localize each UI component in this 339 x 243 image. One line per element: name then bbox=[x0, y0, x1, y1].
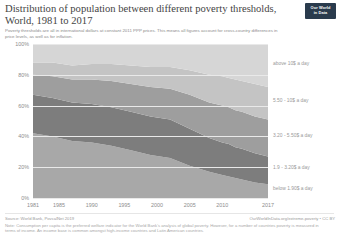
y-axis-tick: 60% bbox=[18, 103, 29, 109]
stacked-area-plot bbox=[33, 44, 268, 198]
y-axis-tick: 40% bbox=[18, 133, 29, 139]
x-axis-tick: 1995 bbox=[118, 202, 130, 208]
gridline bbox=[33, 198, 268, 199]
source-text: Source: World Bank, PovcalNet 2019 bbox=[5, 216, 74, 221]
x-axis-tick: 1981 bbox=[27, 202, 39, 208]
y-axis-tick: 20% bbox=[18, 164, 29, 170]
page-title: Distribution of population between diffe… bbox=[5, 3, 290, 26]
gridline bbox=[33, 136, 268, 137]
license-text[interactable]: OurWorldInData.org/extreme-poverty • CC … bbox=[250, 216, 335, 221]
owid-logo[interactable]: Our World in Data bbox=[305, 3, 336, 19]
x-axis-tick: 2017 bbox=[262, 202, 274, 208]
area-chart-svg bbox=[33, 44, 268, 198]
series-label-0: below 1.90$ a day bbox=[273, 186, 335, 192]
footnote-text: Note: Consumption per capita is the pref… bbox=[5, 223, 325, 233]
series-label-2: 3.20 - 5.50$ a day bbox=[273, 133, 335, 139]
x-axis-tick: 2000 bbox=[151, 202, 163, 208]
x-axis-tick: 1990 bbox=[86, 202, 98, 208]
x-axis-tick: 2010 bbox=[216, 202, 228, 208]
logo-line-2: in Data bbox=[314, 11, 328, 16]
gridline bbox=[33, 106, 268, 107]
x-axis-tick: 1985 bbox=[53, 202, 65, 208]
chart-subtitle: Poverty thresholds are all in internatio… bbox=[5, 28, 285, 39]
series-label-4: above 10$ a day bbox=[273, 61, 335, 67]
y-axis-tick: 80% bbox=[18, 72, 29, 78]
series-label-1: 1.9 - 3.20$ a day bbox=[273, 165, 335, 171]
y-axis: 100%80%60%40%20%0% bbox=[0, 38, 33, 204]
gridline bbox=[33, 75, 268, 76]
x-axis: 19811985199019952000200520102017 bbox=[0, 200, 339, 212]
chart-page: Distribution of population between diffe… bbox=[0, 0, 339, 243]
series-label-3: 5.50 - 10$ a day bbox=[273, 98, 335, 104]
footer-divider bbox=[5, 213, 334, 214]
gridline bbox=[33, 167, 268, 168]
y-axis-tick: 100% bbox=[15, 41, 29, 47]
x-axis-tick: 2005 bbox=[184, 202, 196, 208]
gridline bbox=[33, 44, 268, 45]
